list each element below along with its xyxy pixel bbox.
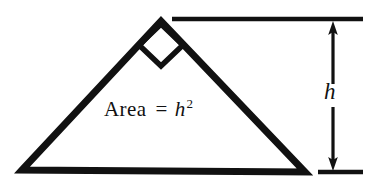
area-formula-label: Area=h2 — [104, 97, 193, 122]
area-word: Area — [104, 97, 146, 121]
equals-sign: = — [155, 97, 167, 121]
right-angle-square-icon — [139, 24, 183, 66]
height-label: h — [324, 79, 336, 105]
area-exponent: 2 — [187, 96, 194, 111]
area-variable: h — [175, 97, 186, 121]
figure-container: Area=h2 h — [0, 0, 389, 186]
